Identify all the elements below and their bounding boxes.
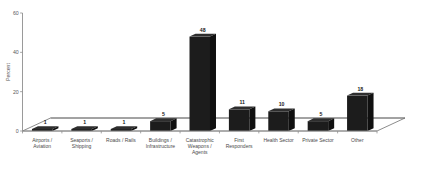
- category-label-line: Shipping: [72, 143, 92, 149]
- bar: [150, 118, 176, 131]
- y-axis-tick-label: 20: [13, 89, 19, 95]
- x-axis-category-label: Private Sector: [302, 137, 334, 143]
- bar: [308, 118, 334, 131]
- bar-side-face: [289, 109, 295, 131]
- bar-value-label: 48: [200, 27, 206, 33]
- category-label-line: First: [234, 137, 244, 143]
- category-label-line: Infrastructure: [146, 143, 176, 149]
- bar-value-label: 1: [83, 119, 86, 125]
- chart-canvas: 0204060Percent 1115481110518 Airports /A…: [0, 0, 433, 174]
- bar-value-label: 5: [162, 111, 165, 117]
- category-label-line: Roads / Rails: [106, 137, 136, 143]
- category-label-line: Other: [351, 137, 364, 143]
- bar: [229, 107, 255, 131]
- x-axis-category-label: Other: [351, 137, 364, 143]
- category-label-line: Responders: [226, 143, 253, 149]
- x-axis-category-label: Seaports /Shipping: [70, 137, 93, 149]
- bar-front-face: [150, 121, 170, 131]
- bar-side-face: [210, 34, 216, 131]
- category-label-line: Seaports /: [70, 137, 93, 143]
- y-axis-tick-label: 40: [13, 49, 19, 55]
- category-label-line: Buildings /: [149, 137, 173, 143]
- category-label-line: Private Sector: [302, 137, 334, 143]
- bar-value-label: 18: [357, 86, 363, 92]
- bar-front-face: [347, 96, 367, 131]
- y-axis-tick-label: 60: [13, 10, 19, 16]
- category-label-line: Catastrophic: [186, 137, 215, 143]
- bar-front-face: [268, 111, 288, 131]
- x-axis-category-label: Roads / Rails: [106, 137, 136, 143]
- bar-value-label: 1: [123, 119, 126, 125]
- bar-chart: 0204060Percent 1115481110518 Airports /A…: [0, 0, 433, 174]
- bar: [347, 93, 373, 131]
- x-axis-category-label: Airports /Aviation: [32, 137, 53, 149]
- chart-background: [0, 0, 433, 174]
- x-axis-category-label: Health Sector: [263, 137, 294, 143]
- bar-value-label: 5: [319, 111, 322, 117]
- bar-front-face: [308, 121, 328, 131]
- category-label-line: Weapons /: [188, 143, 212, 149]
- category-label-line: Agents: [192, 149, 208, 155]
- bar-front-face: [229, 109, 249, 131]
- category-label-line: Health Sector: [263, 137, 294, 143]
- bar-value-label: 10: [279, 101, 285, 107]
- category-label-line: Airports /: [32, 137, 53, 143]
- bar-value-label: 1: [44, 119, 47, 125]
- bar-front-face: [190, 37, 210, 131]
- bar-side-face: [249, 107, 255, 131]
- bar: [268, 109, 294, 131]
- x-axis-category-label: Buildings /Infrastructure: [146, 137, 176, 149]
- y-axis-title: Percent: [5, 63, 11, 81]
- bar-side-face: [368, 93, 374, 131]
- bar: [190, 34, 216, 131]
- category-label-line: Aviation: [33, 143, 51, 149]
- y-axis-tick-label: 0: [16, 128, 19, 134]
- bar-value-label: 11: [239, 99, 245, 105]
